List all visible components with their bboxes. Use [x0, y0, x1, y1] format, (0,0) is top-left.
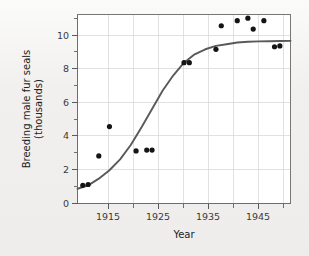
- data-point: [235, 18, 240, 23]
- scatter-chart: 0 2 4 6 8 10 1915 1925 1935: [0, 0, 309, 256]
- y-tick-label-10: 10: [57, 30, 69, 41]
- data-point: [245, 16, 250, 21]
- data-point: [213, 47, 218, 52]
- data-point: [149, 147, 154, 152]
- data-point: [187, 60, 192, 65]
- x-axis-title: Year: [172, 229, 195, 240]
- data-point: [133, 148, 138, 153]
- y-tick-label-0: 0: [63, 198, 69, 209]
- data-point: [96, 153, 101, 158]
- data-point: [181, 60, 186, 65]
- data-point: [251, 27, 256, 32]
- data-point: [272, 44, 277, 49]
- plot-panel: [78, 15, 291, 204]
- x-tick-label-1935: 1935: [196, 211, 220, 222]
- data-point: [261, 18, 266, 23]
- data-point: [107, 124, 112, 129]
- y-axis-title-line2: (thousands): [33, 79, 44, 139]
- data-point: [144, 147, 149, 152]
- y-axis-title-line1: Breeding male fur seals: [21, 50, 32, 169]
- x-tick-label-1945: 1945: [246, 211, 270, 222]
- y-tick-label-8: 8: [63, 63, 69, 74]
- data-point: [277, 43, 282, 48]
- y-tick-label-6: 6: [63, 97, 69, 108]
- y-tick-label-2: 2: [63, 164, 69, 175]
- chart-page: 0 2 4 6 8 10 1915 1925 1935: [0, 0, 309, 256]
- plot-svg: 0 2 4 6 8 10 1915 1925 1935: [0, 0, 309, 256]
- x-tick-label-1925: 1925: [146, 211, 170, 222]
- y-tick-label-4: 4: [63, 130, 69, 141]
- data-point: [86, 182, 91, 187]
- data-point: [80, 183, 85, 188]
- data-point: [219, 23, 224, 28]
- x-tick-label-1915: 1915: [96, 211, 120, 222]
